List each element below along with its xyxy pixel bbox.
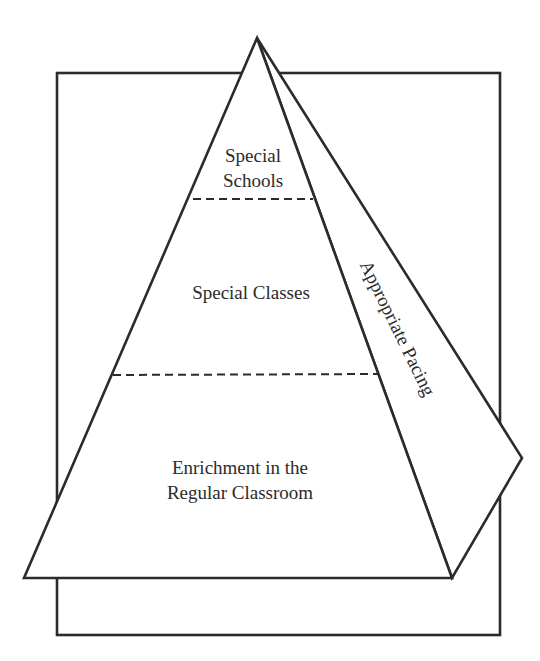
level-middle-label: Special Classes [192, 282, 310, 303]
level-top-label-line2: Schools [223, 170, 283, 191]
divider-middle [113, 374, 378, 375]
level-top-label-line1: Special [225, 145, 281, 166]
level-base-label-line1: Enrichment in the [172, 457, 308, 478]
level-base-label-line2: Regular Classroom [167, 482, 313, 503]
pyramid-diagram: Special Schools Special Classes Enrichme… [0, 0, 540, 661]
